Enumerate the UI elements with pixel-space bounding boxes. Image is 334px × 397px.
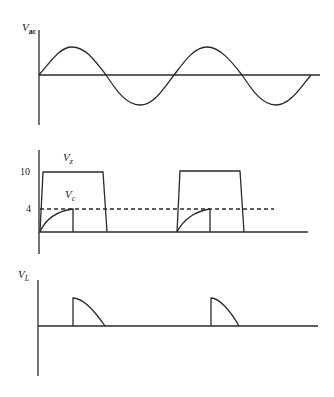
vac-axis-label: Vac — [22, 21, 36, 33]
waveform-diagram: Vac Vz Vc 10 4 VL — [0, 0, 334, 397]
vl-axis-label: VL — [18, 268, 29, 280]
vc-label: Vc — [65, 188, 75, 200]
vl-pulse-1 — [73, 298, 105, 326]
vc-charge-2 — [177, 209, 210, 232]
vc-charge-1 — [40, 209, 73, 232]
vac-sine-wave — [39, 47, 311, 105]
vz-label: Vz — [63, 151, 73, 163]
tick-4-label: 4 — [26, 203, 31, 214]
tick-10-label: 10 — [20, 166, 30, 177]
waveform-graphics — [0, 0, 334, 397]
vl-pulse-2 — [211, 298, 239, 326]
